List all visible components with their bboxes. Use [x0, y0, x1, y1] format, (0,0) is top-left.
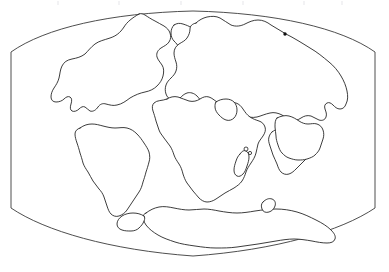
islet-south-icon	[248, 151, 251, 154]
locality-marker-icon	[283, 32, 286, 35]
paleogeographic-map-figure	[0, 0, 389, 272]
islet-north-icon	[244, 147, 248, 151]
map-canvas	[0, 0, 389, 272]
